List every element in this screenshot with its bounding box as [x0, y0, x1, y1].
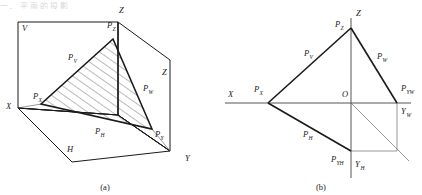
label-b-P-X: P X: [253, 84, 264, 96]
label-P-W-sub: W: [149, 89, 155, 95]
plane-P-traces: [268, 28, 397, 151]
label-P-Y: P Y: [154, 129, 165, 141]
label-P-Y-sub: Y: [161, 135, 165, 141]
label-b-P-W-base: P: [376, 51, 382, 61]
label-b-P-YH-sub: YH: [337, 160, 345, 166]
label-b-P-V-sub: V: [310, 54, 314, 60]
label-P-V-base: P: [67, 52, 73, 62]
diagram-b-canvas: Z X O P Z P V P W P X: [211, 0, 422, 195]
diagram-a-canvas: Z X Y Z V H P Z P V P X P: [0, 0, 211, 195]
label-H-plane: H: [66, 144, 74, 154]
label-b-P-YH-base: P: [330, 154, 336, 164]
label-b-P-V: P V: [303, 48, 314, 60]
label-Z-right: Z: [162, 67, 167, 77]
label-b-P-X-sub: X: [259, 90, 264, 96]
label-X-axis: X: [227, 89, 234, 99]
trace-PW: [351, 28, 397, 103]
label-O-origin: O: [342, 89, 348, 99]
label-b-P-W-sub: W: [383, 57, 389, 63]
label-b-P-YW: P YW: [400, 83, 416, 95]
label-P-V-sub: V: [74, 58, 78, 64]
label-b-P-H: P H: [302, 129, 314, 141]
caption-a: (a): [100, 182, 110, 192]
label-b-P-H-sub: H: [308, 135, 314, 141]
label-V-plane: V: [22, 23, 29, 33]
label-P-X: P X: [32, 91, 43, 103]
label-P-H: P H: [94, 126, 106, 138]
label-P-V: P V: [67, 52, 78, 64]
label-b-P-YW-sub: YW: [407, 89, 416, 95]
trace-PV: [268, 28, 351, 103]
label-Y-right: Y: [185, 153, 191, 163]
label-b-P-H-base: P: [302, 129, 308, 139]
label-X-left: X: [5, 101, 12, 111]
label-P-X-sub: X: [38, 97, 43, 103]
label-b-P-W: P W: [376, 51, 389, 63]
label-P-Y-base: P: [154, 129, 160, 139]
label-b-P-V-base: P: [303, 48, 309, 58]
label-P-W: P W: [142, 83, 155, 95]
plane-P-hatched-face: [41, 39, 152, 129]
axes: [225, 18, 411, 178]
label-b-P-Z-sub: Z: [341, 25, 345, 31]
label-b-Y-W-sub: W: [407, 112, 413, 118]
label-b-P-Z-base: P: [334, 19, 340, 29]
line-PX-to-X: [18, 104, 41, 108]
label-b-Y-H-sub: H: [360, 165, 366, 171]
diagram-a-pictorial: Z X Y Z V H P Z P V P X P: [0, 0, 211, 195]
diagram-b-labels: Z X O P Z P V P W P X: [227, 8, 416, 171]
label-P-W-base: P: [142, 83, 148, 93]
label-P-H-sub: H: [100, 132, 106, 138]
label-b-Y-W: Y W: [401, 106, 413, 118]
label-b-Y-H: Y H: [355, 159, 366, 171]
label-Z-top: Z: [119, 5, 124, 15]
label-b-P-Z: P Z: [334, 19, 345, 31]
label-Z-axis: Z: [356, 8, 361, 18]
label-P-Z-base: P: [106, 20, 112, 30]
caption-b: (b): [316, 182, 326, 192]
diagram-b-unfolded: Z X O P Z P V P W P X: [211, 0, 422, 195]
label-P-H-base: P: [94, 126, 100, 136]
label-P-Z-sub: Z: [113, 26, 117, 32]
label-P-X-base: P: [32, 91, 38, 101]
figure-root: 一、平面的投影: [0, 0, 422, 195]
label-b-P-X-base: P: [253, 84, 259, 94]
label-b-P-YH: P YH: [330, 154, 345, 166]
label-b-P-YW-base: P: [400, 83, 406, 93]
trace-PH: [268, 103, 351, 151]
